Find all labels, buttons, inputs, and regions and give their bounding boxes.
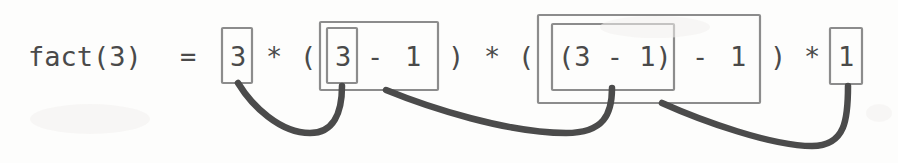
lhs-call-label: fact(3) <box>28 41 142 72</box>
equals-sign: = <box>180 41 196 72</box>
minus-sign-1: - <box>367 41 383 72</box>
paren-open-2: ( <box>518 41 534 72</box>
one-operand-1: 1 <box>405 41 421 72</box>
box-3-inner-value: (3 - 1) <box>558 41 672 72</box>
multiply-sign-3: * <box>804 41 820 72</box>
box-4-value: 1 <box>838 41 854 72</box>
paren-close-2: ) <box>770 41 786 72</box>
one-operand-2: 1 <box>730 41 746 72</box>
paren-open-1: ( <box>300 41 316 72</box>
paren-close-1: ) <box>448 41 464 72</box>
connector-3 <box>662 86 848 146</box>
box-2-inner-value: 3 <box>335 41 351 72</box>
box-1-value: 3 <box>230 41 246 72</box>
figure-canvas: fact(3) = 3 * ( 3 - 1 ) * ( (3 - 1) - 1 … <box>0 0 898 163</box>
multiply-sign-1: * <box>266 41 282 72</box>
connector-2 <box>386 88 612 133</box>
multiply-sign-2: * <box>484 41 500 72</box>
fact-recursion-figure: fact(3) = 3 * ( 3 - 1 ) * ( (3 - 1) - 1 … <box>0 0 898 163</box>
minus-sign-2: - <box>692 41 708 72</box>
